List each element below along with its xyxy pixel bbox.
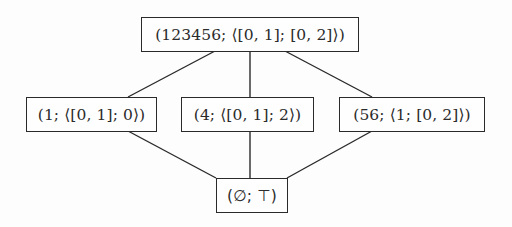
- node-middle: (4; ⟨[0, 1]; 2⟩): [181, 97, 314, 132]
- edge-left-bottom: [128, 131, 216, 178]
- edge-top-left: [128, 51, 215, 97]
- node-bottom: (∅; ⊤): [216, 178, 288, 213]
- node-top: (123456; ⟨[0, 1]; [0, 2]⟩): [141, 17, 359, 52]
- node-right: (56; ⟨1; [0, 2]⟩): [339, 97, 485, 132]
- node-left: (1; ⟨[0, 1]; 0⟩): [26, 97, 157, 132]
- edge-top-right: [285, 51, 372, 97]
- edge-right-bottom: [287, 131, 372, 178]
- lattice-diagram: (123456; ⟨[0, 1]; [0, 2]⟩) (1; ⟨[0, 1]; …: [0, 0, 512, 227]
